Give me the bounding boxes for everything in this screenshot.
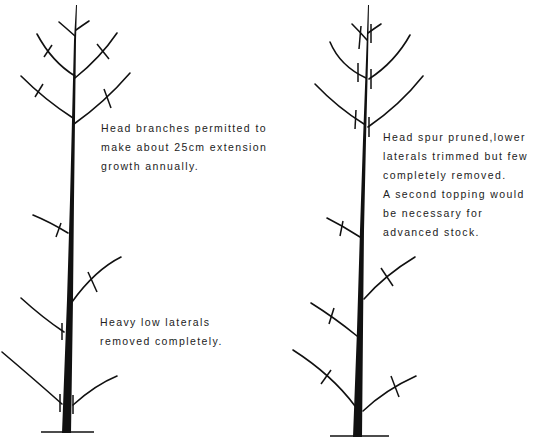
right-branch-tier2-right [369,35,410,79]
left-basal-lateral-right [73,376,117,405]
caption-line: completely removed. [383,166,528,185]
caption-line: removed completely. [100,332,223,351]
left-lateral-mid-left [33,215,68,233]
right-branch-tier2-left [330,42,366,78]
right-cut-mark [359,26,361,49]
left-lateral-right [72,257,121,302]
right-lateral-low-left [311,303,357,336]
caption-line: be necessary for [383,204,528,223]
caption-line: advanced stock. [383,223,528,242]
caption-line: laterals trimmed but few [383,147,528,166]
right-cut-mark [391,376,399,397]
left-cut-mark [56,223,61,237]
caption-line: A second topping would [383,185,528,204]
right-lateral-mid-right [364,257,415,299]
right-basal-lateral-left [293,350,355,406]
left-top-fork-right [76,21,89,30]
left-branch-tier3-left [21,76,73,118]
caption-line: Head spur pruned,lower [383,128,528,147]
right-head-caption: Head spur pruned,lower laterals trimmed … [383,128,528,242]
right-branch-tier3-right [368,76,423,127]
right-lateral-mid-left [327,218,360,237]
left-branch-tier2-left [37,34,75,76]
left-branch-tier2-right [75,33,117,78]
right-cut-mark [340,221,343,236]
right-cut-mark [355,110,356,129]
right-branch-tier3-left [315,84,364,124]
right-trunk [353,5,369,437]
caption-line: growth annually. [101,157,267,176]
caption-line: Heavy low laterals [100,313,223,332]
right-cut-mark [381,268,393,286]
left-tree [2,5,130,433]
right-top-spur-right [368,24,381,33]
left-basal-lateral-left [2,352,62,404]
left-head-caption: Head branches permitted to make about 25… [101,119,267,176]
left-branch-tier3-right [74,73,130,124]
left-laterals-caption: Heavy low laterals removed completely. [100,313,223,351]
right-basal-lateral-right [363,376,416,411]
caption-line: make about 25cm extension [101,138,267,157]
caption-line: Head branches permitted to [101,119,267,138]
left-top-fork-left [59,22,75,36]
left-lateral-low-left [21,298,64,332]
